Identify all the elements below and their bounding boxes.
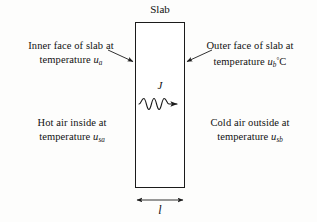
thickness-symbol-label: l: [140, 203, 180, 218]
label-cold-air-prefix: temperature: [217, 131, 271, 142]
label-outer-face: Outer face of slab at temperature ub°C: [188, 39, 312, 72]
label-inner-face-prefix: temperature: [40, 54, 94, 65]
label-hot-air-subscript: sa: [98, 136, 104, 144]
label-cold-air: Cold air outside at temperature usb: [188, 116, 312, 147]
label-inner-face: Inner face of slab at temperature ua: [12, 39, 130, 70]
label-hot-air-line1: Hot air inside at: [14, 116, 130, 130]
label-inner-face-line2: temperature ua: [12, 53, 130, 70]
label-cold-air-line2: temperature usb: [188, 130, 312, 147]
flux-symbol-label: J: [140, 79, 180, 91]
heat-conduction-slab-diagram: Slab Inner face of slab at temperature u…: [0, 0, 317, 222]
label-hot-air: Hot air inside at temperature usa: [14, 116, 130, 147]
label-inner-face-subscript: a: [99, 59, 103, 67]
label-inner-face-line1: Inner face of slab at: [12, 39, 130, 53]
label-outer-face-unit: C: [279, 56, 286, 67]
slab-rectangle: [135, 22, 185, 188]
label-outer-face-line1: Outer face of slab at: [188, 39, 312, 53]
label-outer-face-line2: temperature ub°C: [188, 53, 312, 72]
label-cold-air-line1: Cold air outside at: [188, 116, 312, 130]
label-hot-air-line2: temperature usa: [14, 130, 130, 147]
label-cold-air-subscript: sb: [276, 136, 282, 144]
label-hot-air-prefix: temperature: [39, 131, 93, 142]
slab-title: Slab: [135, 3, 185, 15]
label-outer-face-prefix: temperature: [214, 56, 268, 67]
